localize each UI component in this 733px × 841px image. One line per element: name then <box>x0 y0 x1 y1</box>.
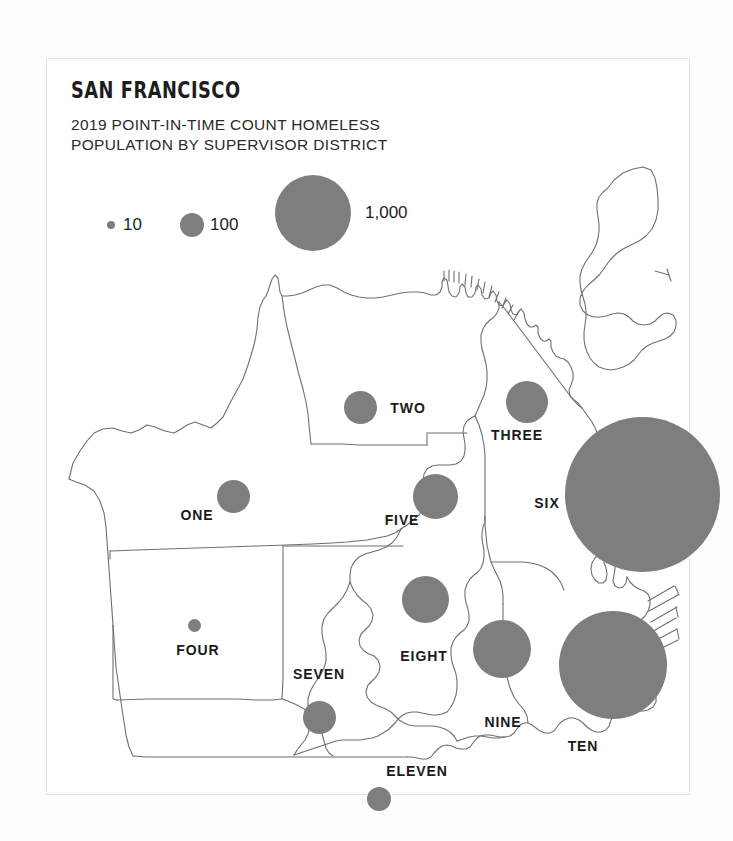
district-label-two: TWO <box>390 400 425 416</box>
bubble-layer: ONETWOTHREEFOURFIVESIXSEVENEIGHTNINETENE… <box>47 59 691 796</box>
district-label-eight: EIGHT <box>400 648 447 664</box>
district-label-ten: TEN <box>568 738 599 754</box>
map-card: SAN FRANCISCO 2019 POINT-IN-TIME COUNT H… <box>46 58 690 795</box>
bubble-district-four[interactable] <box>188 619 201 632</box>
bubble-district-eleven[interactable] <box>367 787 391 811</box>
district-label-four: FOUR <box>176 642 219 658</box>
district-label-seven: SEVEN <box>293 666 345 682</box>
map-canvas: ONETWOTHREEFOURFIVESIXSEVENEIGHTNINETENE… <box>47 59 691 796</box>
bubble-district-eight[interactable] <box>402 576 449 623</box>
bubble-district-three[interactable] <box>506 381 548 423</box>
bubble-district-six[interactable] <box>565 417 720 572</box>
district-label-three: THREE <box>491 427 543 443</box>
district-label-eleven: ELEVEN <box>386 763 447 779</box>
district-label-six: SIX <box>534 495 559 511</box>
district-label-one: ONE <box>180 507 213 523</box>
page-background: SAN FRANCISCO 2019 POINT-IN-TIME COUNT H… <box>0 0 733 841</box>
bubble-district-ten[interactable] <box>559 611 667 719</box>
bubble-district-seven[interactable] <box>303 701 336 734</box>
district-label-nine: NINE <box>484 714 521 730</box>
bubble-district-one[interactable] <box>217 480 250 513</box>
district-label-five: FIVE <box>385 512 420 528</box>
bubble-district-two[interactable] <box>344 391 377 424</box>
bubble-district-nine[interactable] <box>473 620 531 678</box>
